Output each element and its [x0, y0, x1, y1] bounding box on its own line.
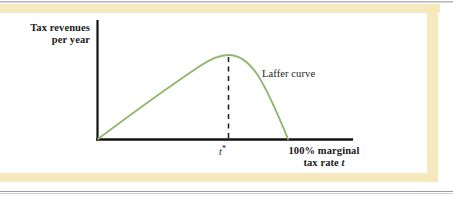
- x-axis-label-line2: tax rate t: [268, 157, 380, 169]
- x-axis-label-line1: 100% marginal: [288, 145, 359, 156]
- tstar-asterisk: *: [222, 143, 227, 153]
- y-axis-label-line2: per year: [52, 34, 90, 45]
- y-axis-label-line1: Tax revenues: [30, 22, 90, 33]
- laffer-curve-path: [98, 55, 288, 139]
- y-axis-label: Tax revenues per year: [14, 22, 90, 47]
- x-axis-label-prefix: tax rate: [303, 157, 341, 168]
- curve-name-label: Laffer curve: [262, 68, 315, 80]
- tstar-label: t*: [219, 143, 226, 158]
- x-axis-label: 100% marginal tax rate t: [268, 145, 380, 170]
- figure-page: Tax revenues per year Laffer curve t* 10…: [0, 0, 453, 200]
- x-axis-label-variable: t: [342, 157, 345, 168]
